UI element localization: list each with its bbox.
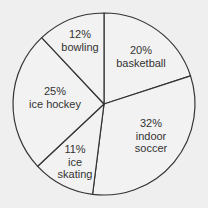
slice-category: skating — [58, 168, 93, 181]
slice-percent: 12% — [61, 28, 98, 41]
slice-label-ice-hockey: 25%ice hockey — [29, 85, 81, 110]
slice-label-basketball: 20%basketball — [116, 44, 166, 69]
slice-label-indoor-soccer: 32%indoorsoccer — [135, 117, 167, 155]
slice-percent: 32% — [135, 117, 167, 130]
slice-percent: 20% — [116, 44, 166, 57]
slice-label-ice-skating: 11%iceskating — [58, 143, 93, 181]
slice-category: ice — [58, 156, 93, 169]
slice-category: soccer — [135, 142, 167, 155]
slice-category: ice hockey — [29, 97, 81, 110]
slice-label-bowling: 12%bowling — [61, 28, 98, 53]
slice-percent: 25% — [29, 85, 81, 98]
slice-category: bowling — [61, 40, 98, 53]
slice-category: indoor — [135, 130, 167, 143]
slice-percent: 11% — [58, 143, 93, 156]
slice-category: basketball — [116, 56, 166, 69]
